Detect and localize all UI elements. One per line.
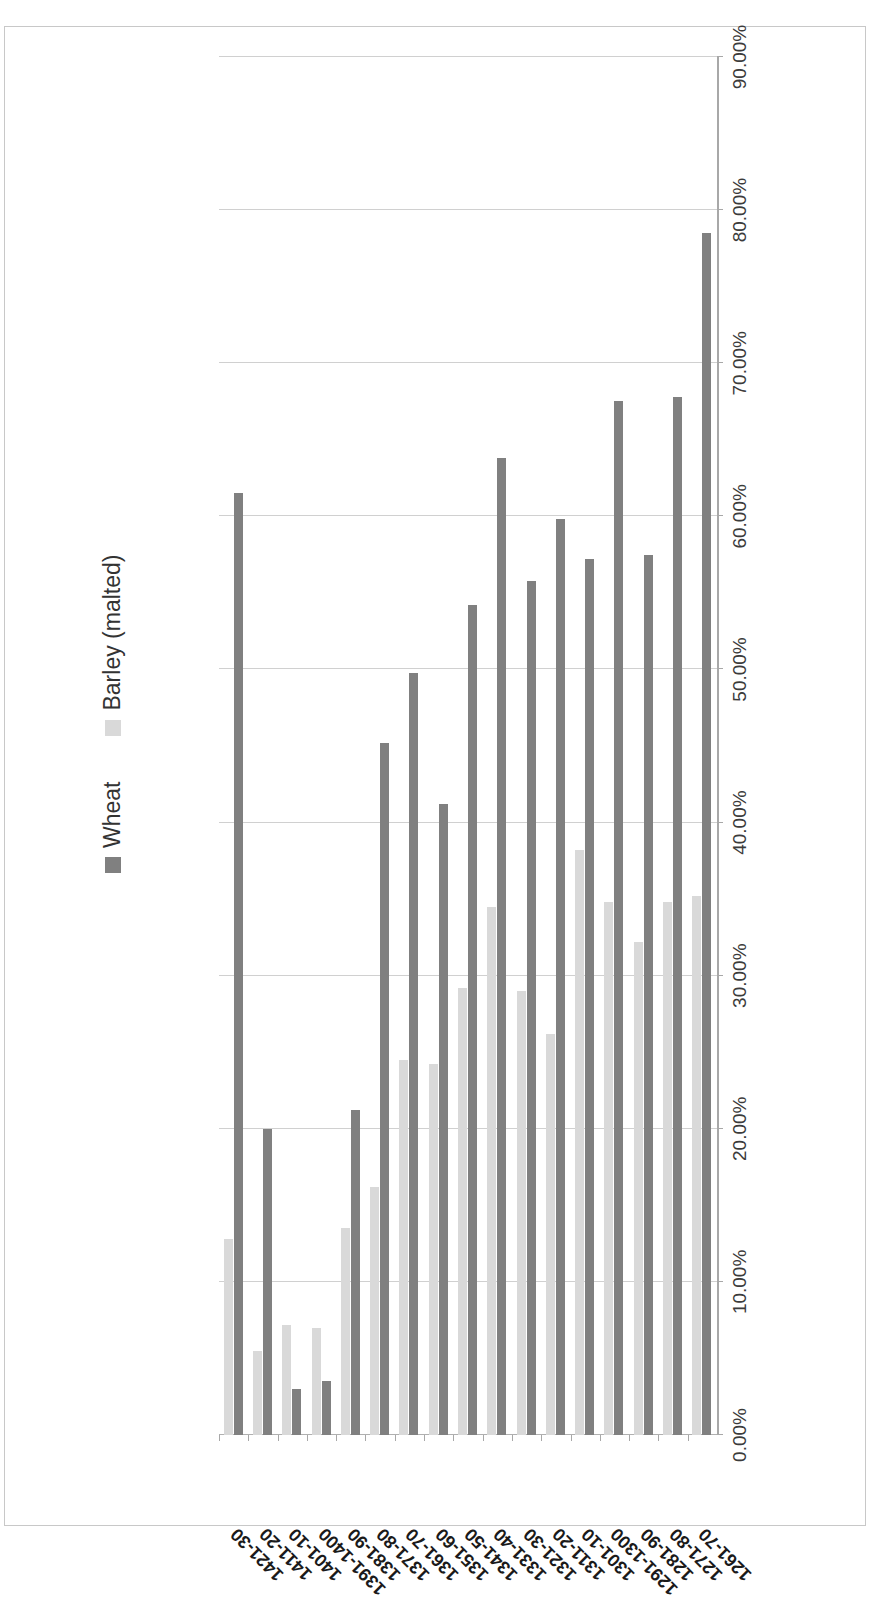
bar-wheat[interactable]	[673, 397, 682, 1435]
plot-area: 1261-701271-801281-901291-13001301-10131…	[219, 57, 717, 1435]
bar-wheat[interactable]	[439, 804, 448, 1435]
value-axis-line: 0.00%10.00%20.00%30.00%40.00%50.00%60.00…	[717, 57, 719, 1435]
category-row	[307, 57, 336, 1435]
value-axis-tick	[717, 1281, 723, 1282]
category-axis-tick	[219, 1435, 220, 1441]
legend-label: Wheat	[99, 782, 126, 848]
chart-frame: WheatBarley (malted) 1261-701271-801281-…	[4, 26, 866, 1526]
value-axis-label: 20.00%	[729, 1097, 751, 1161]
category-row	[658, 57, 687, 1435]
bar-wheat[interactable]	[468, 605, 477, 1435]
value-axis-label: 0.00%	[729, 1408, 751, 1462]
legend-label: Barley (malted)	[99, 555, 126, 711]
bar-barley[interactable]	[341, 1228, 350, 1435]
category-row	[541, 57, 570, 1435]
bar-wheat[interactable]	[614, 402, 623, 1436]
category-row	[600, 57, 629, 1435]
bar-barley[interactable]	[224, 1239, 233, 1435]
bar-wheat[interactable]	[527, 581, 536, 1435]
category-axis-tick	[541, 1435, 542, 1441]
bar-barley[interactable]	[634, 942, 643, 1435]
bar-wheat[interactable]	[234, 493, 243, 1435]
value-axis-label: 30.00%	[729, 943, 751, 1007]
bar-barley[interactable]	[282, 1325, 291, 1435]
bar-wheat[interactable]	[351, 1110, 360, 1435]
category-row	[395, 57, 424, 1435]
value-axis-label: 80.00%	[729, 178, 751, 242]
category-axis-tick	[278, 1435, 279, 1441]
value-axis-tick	[717, 668, 723, 669]
category-axis-tick	[365, 1435, 366, 1441]
value-axis-label: 60.00%	[729, 484, 751, 548]
category-row	[365, 57, 394, 1435]
category-row	[248, 57, 277, 1435]
bar-barley[interactable]	[312, 1328, 321, 1435]
category-row	[336, 57, 365, 1435]
value-axis-label: 40.00%	[729, 790, 751, 854]
category-axis-tick	[248, 1435, 249, 1441]
category-row	[453, 57, 482, 1435]
bar-barley[interactable]	[429, 1064, 438, 1435]
category-axis-tick	[658, 1435, 659, 1441]
category-axis-tick	[307, 1435, 308, 1441]
bar-wheat[interactable]	[380, 743, 389, 1435]
legend-swatch-icon	[105, 857, 121, 873]
bar-wheat[interactable]	[263, 1129, 272, 1435]
category-row	[688, 57, 717, 1435]
category-axis-tick	[483, 1435, 484, 1441]
bar-barley[interactable]	[487, 907, 496, 1435]
category-row	[571, 57, 600, 1435]
value-axis-tick	[717, 209, 723, 210]
bar-barley[interactable]	[663, 902, 672, 1435]
bar-barley[interactable]	[399, 1060, 408, 1435]
bar-barley[interactable]	[253, 1351, 262, 1435]
legend-swatch-icon	[105, 720, 121, 736]
bar-barley[interactable]	[458, 988, 467, 1435]
bar-wheat[interactable]	[497, 458, 506, 1435]
rotated-chart-canvas: WheatBarley (malted) 1261-701271-801281-…	[7, 29, 863, 1523]
chart-legend: WheatBarley (malted)	[99, 555, 126, 873]
category-row	[483, 57, 512, 1435]
bar-wheat[interactable]	[292, 1389, 301, 1435]
category-row	[629, 57, 658, 1435]
legend-item[interactable]: Barley (malted)	[99, 555, 126, 736]
category-axis-tick	[571, 1435, 572, 1441]
value-axis-label: 50.00%	[729, 637, 751, 701]
value-axis-tick	[717, 515, 723, 516]
bar-barley[interactable]	[604, 902, 613, 1435]
value-axis-tick	[717, 975, 723, 976]
category-axis-tick	[629, 1435, 630, 1441]
category-axis-tick	[424, 1435, 425, 1441]
bar-wheat[interactable]	[644, 555, 653, 1435]
category-axis-tick	[453, 1435, 454, 1441]
bar-wheat[interactable]	[702, 233, 711, 1435]
value-axis-tick	[717, 56, 723, 57]
category-row	[424, 57, 453, 1435]
category-axis-tick	[336, 1435, 337, 1441]
bar-barley[interactable]	[575, 850, 584, 1435]
category-axis-tick	[395, 1435, 396, 1441]
value-axis-label: 70.00%	[729, 331, 751, 395]
category-row	[512, 57, 541, 1435]
value-axis-tick	[717, 1434, 723, 1435]
value-axis-label: 10.00%	[729, 1250, 751, 1314]
category-axis-tick	[688, 1435, 689, 1441]
bar-wheat[interactable]	[409, 673, 418, 1435]
legend-item[interactable]: Wheat	[99, 782, 126, 873]
value-axis-tick	[717, 362, 723, 363]
category-axis-tick	[600, 1435, 601, 1441]
category-axis-tick	[512, 1435, 513, 1441]
bar-barley[interactable]	[546, 1034, 555, 1435]
category-row	[219, 57, 248, 1435]
value-axis-tick	[717, 1128, 723, 1129]
bar-wheat[interactable]	[322, 1381, 331, 1435]
value-axis-tick	[717, 822, 723, 823]
bar-barley[interactable]	[370, 1187, 379, 1435]
bar-barley[interactable]	[517, 991, 526, 1435]
bar-wheat[interactable]	[556, 519, 565, 1435]
bar-barley[interactable]	[692, 896, 701, 1435]
category-row	[278, 57, 307, 1435]
bar-wheat[interactable]	[585, 559, 594, 1435]
value-axis-label: 90.00%	[729, 25, 751, 89]
